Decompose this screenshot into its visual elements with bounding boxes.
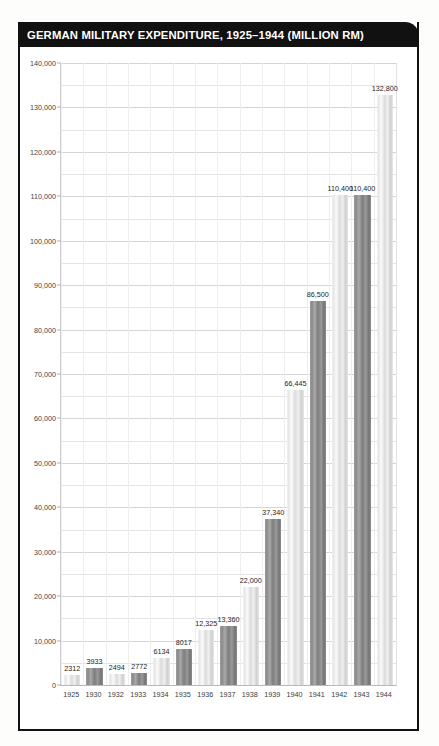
x-axis-ticks: 1925193019321933193419351936193719381939… xyxy=(60,688,397,704)
bar xyxy=(332,195,348,685)
bar-column: 12,325 xyxy=(198,630,214,685)
x-axis-tick-label: 1935 xyxy=(175,690,191,699)
x-axis-tick-label: 1934 xyxy=(153,690,169,699)
bar-column: 2312 xyxy=(64,675,80,685)
plot-area: 010,00020,00030,00040,00050,00060,00070,… xyxy=(60,63,397,686)
bar xyxy=(265,519,281,685)
x-axis-tick-label: 1944 xyxy=(376,690,392,699)
bar-value-label: 2494 xyxy=(109,663,125,672)
bar-chart: 010,00020,00030,00040,00050,00060,00070,… xyxy=(20,47,417,729)
bar xyxy=(86,668,102,685)
bar xyxy=(109,674,125,685)
bar xyxy=(287,390,303,685)
bar xyxy=(131,673,147,685)
bar-column: 132,800 xyxy=(377,95,393,685)
bar-column: 6134 xyxy=(153,658,169,685)
bar-value-label: 66,445 xyxy=(284,379,306,388)
bar xyxy=(198,630,214,685)
bar-value-label: 22,000 xyxy=(240,576,262,585)
bar xyxy=(176,649,192,685)
bar-value-label: 86,500 xyxy=(307,290,329,299)
chart-title-bar: GERMAN MILITARY EXPENDITURE, 1925–1944 (… xyxy=(18,22,419,47)
page-title: GERMAN MILITARY EXPENDITURE, 1925–1944 (… xyxy=(18,29,364,41)
bar xyxy=(377,95,393,685)
bars-layer: 23123933249427726134801712,32513,36022,0… xyxy=(61,63,396,685)
x-axis-tick-label: 1932 xyxy=(108,690,124,699)
bar-column: 13,360 xyxy=(220,626,236,685)
x-axis-tick-label: 1939 xyxy=(264,690,280,699)
chart-page: GERMAN MILITARY EXPENDITURE, 1925–1944 (… xyxy=(0,0,439,746)
bar xyxy=(153,658,169,685)
bar-value-label: 6134 xyxy=(153,647,169,656)
bar-value-label: 2312 xyxy=(64,664,80,673)
bar-column: 2772 xyxy=(131,673,147,685)
x-axis-tick-label: 1941 xyxy=(309,690,325,699)
bar-value-label: 13,360 xyxy=(217,615,239,624)
x-axis-tick-label: 1938 xyxy=(242,690,258,699)
bar-value-label: 2772 xyxy=(131,662,147,671)
bar-value-label: 110,400 xyxy=(350,184,375,193)
bar-column: 110,400 xyxy=(332,195,348,685)
bar-column: 86,500 xyxy=(310,301,326,685)
bar xyxy=(354,195,370,685)
x-axis-tick-label: 1930 xyxy=(86,690,102,699)
bar-column: 22,000 xyxy=(243,587,259,685)
bar-column: 8017 xyxy=(176,649,192,685)
bar xyxy=(310,301,326,685)
x-axis-tick-label: 1943 xyxy=(354,690,370,699)
x-axis-tick-label: 1936 xyxy=(197,690,213,699)
bar-column: 110,400 xyxy=(354,195,370,685)
bar-value-label: 132,800 xyxy=(372,84,398,93)
bar-value-label: 8017 xyxy=(176,638,192,647)
bar-column: 66,445 xyxy=(287,390,303,685)
bar xyxy=(220,626,236,685)
x-axis-tick-label: 1940 xyxy=(287,690,303,699)
bar-column: 2494 xyxy=(109,674,125,685)
x-axis-tick-label: 1933 xyxy=(130,690,146,699)
x-axis-tick-label: 1925 xyxy=(63,690,79,699)
bar-column: 37,340 xyxy=(265,519,281,685)
bar-value-label: 37,340 xyxy=(262,508,284,517)
bar-value-label: 3933 xyxy=(86,657,102,666)
bar xyxy=(64,675,80,685)
bar xyxy=(243,587,259,685)
x-axis-tick-label: 1942 xyxy=(331,690,347,699)
bar-column: 3933 xyxy=(86,668,102,685)
bar-value-label: 12,325 xyxy=(195,619,217,628)
x-axis-tick-label: 1937 xyxy=(220,690,236,699)
